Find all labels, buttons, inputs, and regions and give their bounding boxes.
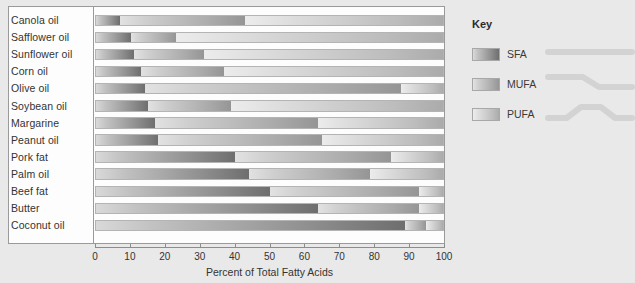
bar-row: Corn oil — [0, 63, 437, 80]
legend-swatch-pufa — [472, 108, 500, 121]
bar-segment-mufa — [318, 204, 419, 214]
category-label: Sunflower oil — [11, 49, 89, 60]
bar-rows: Canola oilSafflower oilSunflower oilCorn… — [0, 0, 437, 238]
bar-segment-pufa — [419, 204, 443, 214]
bar-segment-mufa — [148, 101, 231, 111]
x-axis-title: Percent of Total Fatty Acids — [95, 266, 444, 278]
x-tick-label: 10 — [115, 251, 145, 262]
category-label: Butter — [11, 203, 89, 214]
bar-segment-mufa — [155, 118, 318, 128]
bar-segment-sfa — [96, 84, 145, 94]
bar-segment-pufa — [426, 221, 443, 231]
x-tick — [409, 244, 410, 248]
x-tick-label: 70 — [324, 251, 354, 262]
bar-segment-pufa — [231, 101, 443, 111]
bar-segment-sfa — [96, 221, 405, 231]
legend-label: MUFA — [507, 78, 545, 90]
bar-segment-sfa — [96, 204, 318, 214]
stacked-bar — [95, 134, 444, 146]
x-tick — [165, 244, 166, 248]
bar-segment-sfa — [96, 152, 235, 162]
bar-segment-mufa — [145, 84, 402, 94]
x-tick-label: 90 — [394, 251, 424, 262]
bar-row: Peanut oil — [0, 132, 437, 149]
bar-segment-pufa — [245, 16, 443, 26]
bar-segment-mufa — [270, 187, 419, 197]
bar-row: Pork fat — [0, 149, 437, 166]
category-label: Soybean oil — [11, 101, 89, 112]
x-tick-label: 100 — [429, 251, 459, 262]
x-tick — [235, 244, 236, 248]
bar-segment-pufa — [224, 67, 443, 77]
bar-segment-sfa — [96, 118, 155, 128]
x-tick — [444, 244, 445, 248]
x-tick — [374, 244, 375, 248]
bar-row: Soybean oil — [0, 98, 437, 115]
x-tick — [304, 244, 305, 248]
bar-row: Safflower oil — [0, 29, 437, 46]
bar-segment-mufa — [405, 221, 426, 231]
x-tick — [130, 244, 131, 248]
bar-segment-mufa — [249, 169, 370, 179]
bar-row: Margarine — [0, 115, 437, 132]
x-tick-label: 80 — [359, 251, 389, 262]
bar-row: Olive oil — [0, 80, 437, 97]
stacked-bar — [95, 203, 444, 215]
bar-segment-sfa — [96, 50, 134, 60]
legend-swatch-mufa — [472, 78, 500, 91]
bar-row: Sunflower oil — [0, 46, 437, 63]
category-label: Coconut oil — [11, 220, 89, 231]
bar-segment-pufa — [391, 152, 443, 162]
stacked-bar — [95, 186, 444, 198]
bar-segment-sfa — [96, 101, 148, 111]
stacked-bar — [95, 15, 444, 27]
bar-segment-sfa — [96, 135, 158, 145]
bar-segment-pufa — [204, 50, 443, 60]
stacked-bar — [95, 151, 444, 163]
legend-item-pufa[interactable]: PUFA — [472, 99, 607, 129]
bar-segment-mufa — [235, 152, 391, 162]
category-label: Corn oil — [11, 66, 89, 77]
category-label: Safflower oil — [11, 32, 89, 43]
bar-row: Palm oil — [0, 166, 437, 183]
legend-label: PUFA — [507, 108, 545, 120]
bar-segment-sfa — [96, 187, 270, 197]
one-bend-chain-icon — [545, 69, 635, 99]
stacked-bar — [95, 117, 444, 129]
bar-segment-mufa — [131, 33, 176, 43]
x-tick-label: 50 — [255, 251, 285, 262]
bar-segment-mufa — [134, 50, 203, 60]
bar-segment-sfa — [96, 33, 131, 43]
bar-segment-pufa — [370, 169, 443, 179]
x-tick — [270, 244, 271, 248]
bar-segment-mufa — [120, 16, 245, 26]
bar-segment-pufa — [318, 118, 443, 128]
bar-segment-sfa — [96, 169, 249, 179]
x-tick-label: 30 — [185, 251, 215, 262]
category-label: Olive oil — [11, 83, 89, 94]
bar-segment-pufa — [322, 135, 443, 145]
bar-segment-sfa — [96, 67, 141, 77]
stacked-bar — [95, 168, 444, 180]
bar-row: Butter — [0, 200, 437, 217]
stacked-bar — [95, 83, 444, 95]
stacked-bar — [95, 100, 444, 112]
bar-segment-pufa — [419, 187, 443, 197]
bar-row: Canola oil — [0, 12, 437, 29]
category-label: Peanut oil — [11, 135, 89, 146]
bar-segment-pufa — [176, 33, 443, 43]
category-label: Beef fat — [11, 186, 89, 197]
bar-segment-pufa — [401, 84, 443, 94]
x-tick-label: 60 — [289, 251, 319, 262]
bar-segment-sfa — [96, 16, 120, 26]
legend-item-sfa[interactable]: SFA — [472, 39, 607, 69]
stacked-bar — [95, 66, 444, 78]
legend: Key SFAMUFAPUFA — [472, 18, 607, 129]
category-label: Palm oil — [11, 169, 89, 180]
legend-item-mufa[interactable]: MUFA — [472, 69, 607, 99]
category-label: Pork fat — [11, 152, 89, 163]
stacked-bar — [95, 32, 444, 44]
category-label: Margarine — [11, 118, 89, 129]
stacked-bar — [95, 49, 444, 61]
